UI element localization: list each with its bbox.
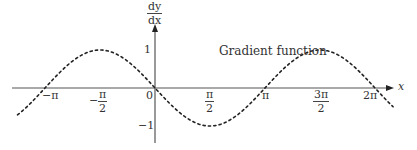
gradient-function-chart [0,0,417,150]
x-tick-pi: π [262,90,269,101]
y-tick-neg1: −1 [138,120,154,131]
x-tick-three-half-pi: 3π 2 [313,89,329,114]
y-axis-label-denominator: dx [147,14,162,26]
y-axis-label-numerator: dy [147,1,162,14]
x-tick-neg-half-pi: − π 2 [98,89,107,114]
x-axis-label: x [398,81,404,92]
y-tick-1: 1 [144,44,151,55]
x-tick-neg-pi: −π [42,90,58,101]
curve-label: Gradient function [219,45,327,57]
negative-sign: − [89,95,98,106]
x-axis-arrow-icon [386,85,394,91]
origin-label: 0 [146,90,153,101]
x-tick-half-pi: π 2 [205,89,214,114]
y-axis-label: dy dx [147,1,162,26]
x-tick-two-pi: 2π [363,90,377,101]
